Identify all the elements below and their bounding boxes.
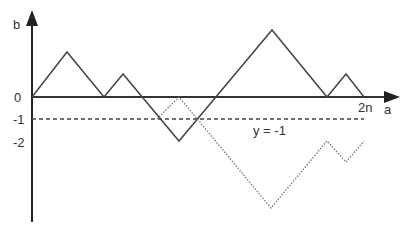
y-tick-minus-1: -1 <box>13 113 25 126</box>
original-path <box>32 30 364 141</box>
y-tick-0: 0 <box>14 91 21 104</box>
diagram-canvas <box>0 0 411 229</box>
y-axis-arrow-icon <box>26 10 38 26</box>
y-tick-minus-2: -2 <box>13 136 25 149</box>
reference-line-label: y = -1 <box>253 124 286 137</box>
y-axis-label: b <box>13 18 20 31</box>
x-end-label: 2n <box>358 101 372 114</box>
x-axis-label: a <box>384 103 391 116</box>
reflected-path <box>157 97 364 208</box>
